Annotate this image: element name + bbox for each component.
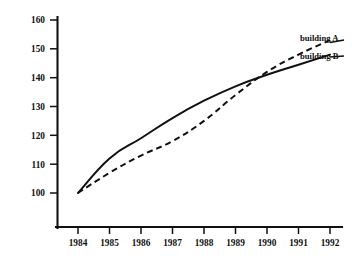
x-tick-label: 1987 (163, 238, 182, 248)
legend-label-building-a: building A (300, 33, 339, 43)
y-tick-label: 130 (31, 102, 45, 112)
x-tick-label: 1986 (132, 238, 151, 248)
x-tick-label: 1984 (69, 238, 88, 248)
y-tick-label: 150 (31, 44, 45, 54)
y-axis-ticks (50, 20, 57, 193)
x-tick-label: 1988 (195, 238, 214, 248)
series-line-building-b (78, 55, 330, 193)
y-tick-label: 110 (32, 160, 46, 170)
x-tick-label: 1989 (226, 238, 245, 248)
line-chart: 160 150 140 130 120 110 100 1984 1985 19… (0, 0, 363, 258)
x-tick-label: 1985 (100, 238, 119, 248)
y-tick-label: 100 (31, 188, 45, 198)
x-tick-label: 1992 (321, 238, 340, 248)
series-line-building-a (78, 40, 330, 193)
x-tick-label: 1990 (258, 238, 277, 248)
x-tick-label: 1991 (289, 238, 308, 248)
y-tick-label: 140 (31, 73, 45, 83)
x-axis-labels: 1984 1985 1986 1987 1988 1989 1990 1991 … (69, 238, 340, 248)
chart-canvas: 160 150 140 130 120 110 100 1984 1985 19… (0, 0, 363, 258)
y-tick-label: 120 (31, 131, 45, 141)
y-tick-label: 160 (31, 15, 45, 25)
legend-label-building-b: building B (300, 51, 339, 61)
y-axis-labels: 160 150 140 130 120 110 100 (31, 15, 45, 198)
